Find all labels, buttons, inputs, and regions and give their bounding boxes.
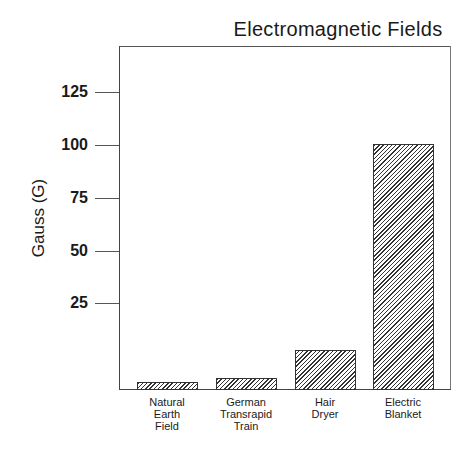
x-label-german-transrapid-train: German Transrapid Train	[201, 396, 291, 432]
bar-natural-earth-field	[137, 382, 198, 390]
plot-frame-top	[119, 46, 451, 47]
y-tick-label-50: 50	[44, 242, 88, 260]
y-tick-label-75: 75	[44, 189, 88, 207]
y-tick-125	[95, 92, 119, 93]
chart-title: Electromagnetic Fields	[208, 18, 468, 41]
bar-electric-blanket	[373, 144, 434, 390]
y-tick-75	[95, 198, 119, 199]
y-tick-25	[95, 303, 119, 304]
x-label-electric-blanket: Electric Blanket	[358, 396, 448, 420]
x-label-natural-earth-field: Natural Earth Field	[122, 396, 212, 432]
y-tick-100	[95, 145, 119, 146]
x-label-hair-dryer: Hair Dryer	[280, 396, 370, 420]
bar-german-transrapid-train	[216, 378, 277, 390]
y-tick-label-25: 25	[44, 294, 88, 312]
y-axis	[119, 46, 120, 390]
y-tick-50	[95, 251, 119, 252]
bar-hair-dryer	[295, 350, 356, 390]
y-tick-label-100: 100	[44, 136, 88, 154]
y-tick-label-125: 125	[44, 83, 88, 101]
plot-frame-right	[450, 46, 451, 390]
